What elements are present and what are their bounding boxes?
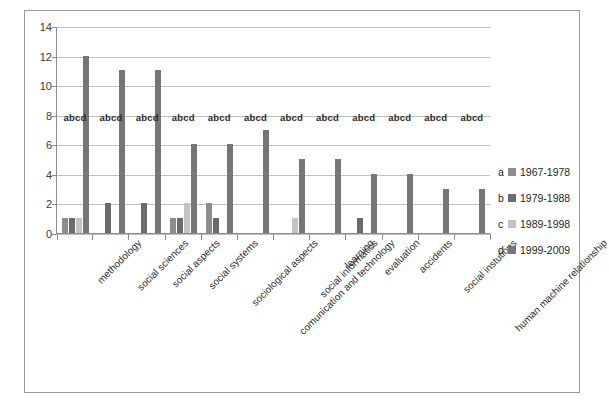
group-series-annotation: abcd [316,112,339,123]
legend-swatch-icon [508,194,516,202]
group-series-annotation: abcd [172,112,195,123]
bar-group-bars [237,27,273,233]
bar-group-bars [418,27,454,233]
bar-a [206,203,212,233]
y-tick-mark [52,234,56,235]
legend-swatch-icon [508,246,516,254]
y-tick-label: 4 [46,169,52,180]
legend-label: 1967-1978 [520,166,570,178]
bar-group: abcd [237,27,273,233]
bar-group: abcd [129,27,165,233]
group-series-annotation: abcd [352,112,375,123]
legend-label: 1989-1998 [520,218,570,230]
bar-d [371,174,377,233]
y-tick-label: 2 [46,199,52,210]
y-tick-label: 12 [40,51,52,62]
legend-swatch-icon [508,220,516,228]
bar-d [83,56,89,233]
bar-d [335,159,341,233]
bar-group-bars [454,27,490,233]
bar-group: abcd [165,27,201,233]
group-series-annotation: abcd [388,112,411,123]
y-tick-label: 8 [46,110,52,121]
bar-group: abcd [418,27,454,233]
bar-b [69,218,75,233]
bar-d [191,144,197,233]
legend-key: b [498,192,507,204]
bar-b [141,203,147,233]
bar-d [479,189,485,233]
bar-group-bars [165,27,201,233]
legend-item[interactable]: b1979-1988 [498,185,608,211]
bar-group-bars [129,27,165,233]
bar-group: abcd [382,27,418,233]
bar-group-bars [201,27,237,233]
bar-c [184,203,190,233]
legend-item[interactable]: d1999-2009 [498,237,608,263]
bar-a [62,218,68,233]
group-series-annotation: abcd [100,112,123,123]
x-category-label: methodology [96,238,144,286]
bar-a [170,218,176,233]
legend-item[interactable]: c1989-1998 [498,211,608,237]
bar-group-bars [57,27,93,233]
y-tick-label: 0 [46,229,52,240]
group-series-annotation: abcd [460,112,483,123]
x-category-label: sociological aspects [250,238,320,308]
legend-label: 1999-2009 [520,244,570,256]
bar-b [177,218,183,233]
bar-group-bars [93,27,129,233]
bar-b [357,218,363,233]
y-tick-label: 14 [40,22,52,33]
bar-d [227,144,233,233]
chart-frame: 02468101214 abcdabcdabcdabcdabcdabcdabcd… [24,10,580,393]
bar-group-bars [273,27,309,233]
legend-item[interactable]: a1967-1978 [498,159,608,185]
bar-d [407,174,413,233]
group-series-annotation: abcd [136,112,159,123]
bar-group: abcd [57,27,93,233]
group-series-annotation: abcd [64,112,87,123]
x-axis-category-labels: methodologysocial sciencessocial aspects… [57,234,491,384]
bar-b [213,218,219,233]
legend-key: a [498,166,507,178]
bar-group: abcd [454,27,490,233]
y-tick-label: 10 [40,81,52,92]
y-tick-label: 6 [46,140,52,151]
bar-group: abcd [346,27,382,233]
plot-area: 02468101214 abcdabcdabcdabcdabcdabcdabcd… [56,27,490,234]
legend: a1967-1978b1979-1988c1989-1998d1999-2009 [498,159,608,263]
legend-label: 1979-1988 [520,192,570,204]
legend-key: d [498,244,507,256]
bar-group: abcd [273,27,309,233]
y-axis-tick-labels: 02468101214 [28,27,54,234]
bar-group: abcd [201,27,237,233]
bar-group-bars [346,27,382,233]
legend-key: c [498,218,507,230]
bar-group-bars [382,27,418,233]
legend-swatch-icon [508,168,516,176]
bar-d [119,70,125,233]
bar-b [105,203,111,233]
bar-groups: abcdabcdabcdabcdabcdabcdabcdabcdabcdabcd… [57,27,490,233]
bar-c [76,218,82,233]
bar-d [155,70,161,233]
bar-group-bars [310,27,346,233]
bar-c [292,218,298,233]
group-series-annotation: abcd [280,112,303,123]
bar-d [263,130,269,234]
bar-group: abcd [93,27,129,233]
bar-d [443,189,449,233]
bar-d [299,159,305,233]
group-series-annotation: abcd [244,112,267,123]
x-category-label: comunication and technology [298,238,397,337]
bar-group: abcd [310,27,346,233]
group-series-annotation: abcd [424,112,447,123]
group-series-annotation: abcd [208,112,231,123]
x-category-label: accidents [417,238,454,275]
